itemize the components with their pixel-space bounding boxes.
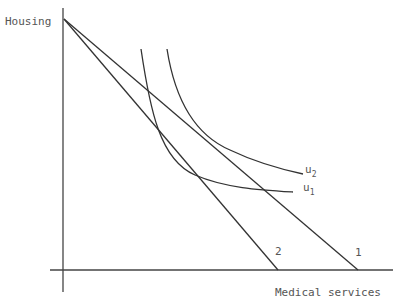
x-axis-label: Medical services bbox=[275, 286, 381, 299]
budget-line-1 bbox=[64, 19, 358, 270]
budget-line-2-label: 2 bbox=[275, 245, 282, 258]
budget-line-1-label: 1 bbox=[355, 246, 362, 259]
u1-label: u1 bbox=[303, 181, 314, 194]
budget-line-2 bbox=[64, 19, 278, 270]
diagram-canvas bbox=[0, 0, 405, 307]
y-axis-label: Housing bbox=[5, 15, 51, 28]
u2-label: u2 bbox=[305, 163, 316, 176]
indifference-curve-u2 bbox=[167, 49, 303, 174]
indifference-curve-u1 bbox=[141, 49, 293, 192]
